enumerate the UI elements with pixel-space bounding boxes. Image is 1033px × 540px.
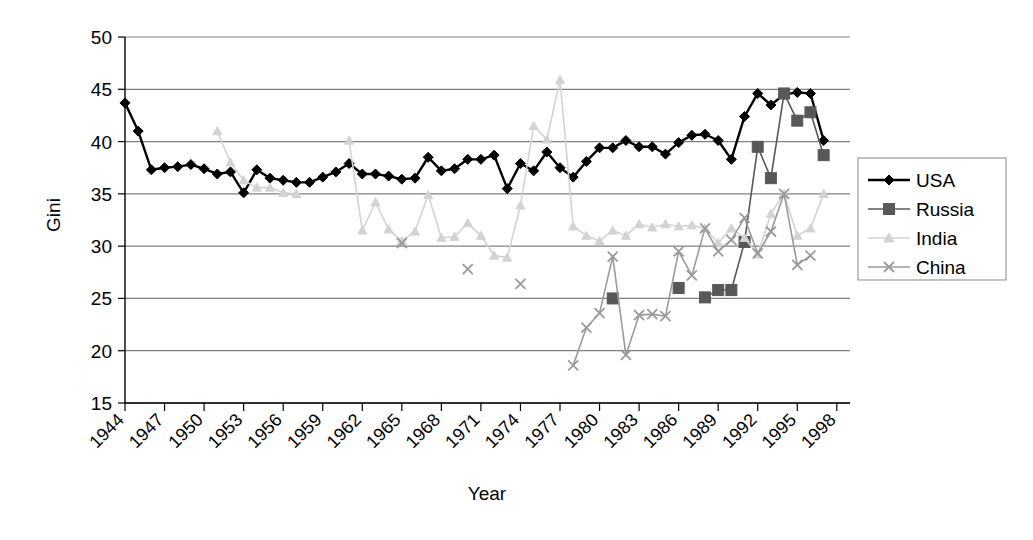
data-point-marker	[199, 164, 209, 174]
y-tick-label: 15	[91, 393, 112, 414]
x-tick-label: 1989	[679, 410, 721, 452]
data-point-marker	[133, 126, 143, 136]
legend-label: India	[916, 228, 958, 249]
data-point-marker	[502, 184, 512, 194]
data-point-marker	[765, 173, 776, 184]
data-point-marker	[607, 293, 618, 304]
data-point-marker	[516, 201, 525, 209]
data-series-group	[120, 75, 829, 370]
legend-marker-swatch	[884, 175, 894, 185]
x-axis-tick-labels: 1944194719501953195619591962196519681971…	[85, 410, 839, 452]
data-point-marker	[146, 165, 156, 175]
series-line	[573, 194, 810, 365]
data-point-marker	[687, 270, 697, 280]
legend: USARussiaIndiaChina	[858, 158, 1006, 280]
data-point-marker	[740, 111, 750, 121]
series-usa	[120, 87, 829, 197]
data-point-marker	[476, 154, 486, 164]
data-point-marker	[713, 285, 724, 296]
x-tick-label: 1953	[204, 410, 246, 452]
data-point-marker	[779, 88, 790, 99]
data-point-marker	[713, 246, 723, 256]
chart-canvas: 1520253035404550 19441947195019531956195…	[0, 0, 1033, 540]
data-point-marker	[515, 279, 525, 289]
x-tick-label: 1980	[560, 410, 602, 452]
legend-item-russia[interactable]: Russia	[868, 199, 975, 220]
data-point-marker	[766, 227, 776, 237]
data-point-marker	[792, 115, 803, 126]
data-point-marker	[489, 150, 499, 160]
data-point-marker	[212, 169, 222, 179]
data-point-marker	[345, 136, 354, 144]
y-tick-label: 40	[91, 132, 112, 153]
y-axis-tick-labels: 1520253035404550	[91, 27, 112, 414]
x-tick-label: 1986	[639, 410, 681, 452]
data-point-marker	[634, 142, 644, 152]
data-point-marker	[582, 231, 591, 239]
data-point-marker	[806, 224, 815, 232]
data-point-marker	[673, 282, 684, 293]
legend-label: Russia	[916, 199, 975, 220]
data-point-marker	[793, 231, 802, 239]
x-axis-title: Year	[468, 483, 507, 504]
data-point-marker	[752, 141, 763, 152]
data-point-marker	[397, 174, 407, 184]
x-tick-label: 1959	[283, 410, 325, 452]
data-point-marker	[411, 227, 420, 235]
x-tick-label: 1962	[323, 410, 365, 452]
data-point-marker	[173, 162, 183, 172]
legend-label: China	[916, 257, 966, 278]
y-tick-label: 35	[91, 184, 112, 205]
data-point-marker	[291, 177, 301, 187]
data-point-marker	[186, 160, 196, 170]
data-point-marker	[463, 264, 473, 274]
legend-marker-swatch	[884, 204, 895, 215]
x-tick-label: 1965	[362, 410, 404, 452]
y-tick-label: 50	[91, 27, 112, 48]
x-tick-label: 1983	[599, 410, 641, 452]
data-point-marker	[160, 163, 170, 173]
data-point-marker	[608, 226, 617, 234]
data-point-marker	[726, 235, 736, 245]
y-tick-label: 25	[91, 288, 112, 309]
legend-item-usa[interactable]: USA	[868, 170, 955, 191]
data-point-marker	[805, 251, 815, 261]
data-point-marker	[766, 209, 775, 217]
data-point-marker	[358, 226, 367, 234]
data-point-marker	[515, 159, 525, 169]
data-point-marker	[635, 220, 644, 228]
series-line	[705, 93, 824, 297]
data-point-marker	[700, 129, 710, 139]
x-tick-label: 1977	[520, 410, 562, 452]
data-point-marker	[213, 127, 222, 135]
legend-item-india[interactable]: India	[868, 228, 958, 249]
x-tick-label: 1971	[441, 410, 483, 452]
data-point-marker	[661, 220, 670, 228]
data-point-marker	[370, 169, 380, 179]
x-tick-label: 1944	[85, 410, 127, 452]
data-point-marker	[226, 158, 235, 166]
y-axis-title: Gini	[43, 198, 64, 232]
data-point-marker	[805, 107, 816, 118]
x-tick-label: 1992	[718, 410, 760, 452]
data-point-marker	[726, 285, 737, 296]
series-russia	[607, 88, 829, 304]
x-tick-label: 1998	[797, 410, 839, 452]
data-point-marker	[727, 224, 736, 232]
x-tick-label: 1956	[244, 410, 286, 452]
data-point-marker	[700, 292, 711, 303]
series-china	[397, 189, 816, 370]
data-point-marker	[371, 198, 380, 206]
data-point-marker	[608, 143, 618, 153]
y-tick-label: 30	[91, 236, 112, 257]
legend-label: USA	[916, 170, 955, 191]
data-point-marker	[120, 98, 130, 108]
legend-item-china[interactable]: China	[868, 257, 966, 278]
data-point-marker	[490, 251, 499, 259]
gini-line-chart: 1520253035404550 19441947195019531956195…	[0, 0, 1033, 540]
x-tick-label: 1974	[481, 410, 523, 452]
data-point-marker	[647, 142, 657, 152]
data-point-marker	[278, 175, 288, 185]
x-tick-label: 1950	[164, 410, 206, 452]
data-point-marker	[581, 323, 591, 333]
